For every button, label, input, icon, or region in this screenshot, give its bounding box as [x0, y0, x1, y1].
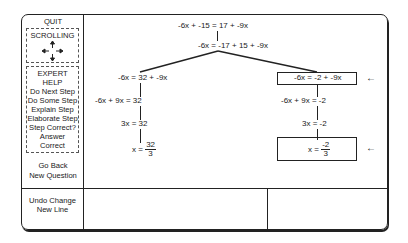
right-eq-2[interactable]: -6x + 9x = -2 [281, 96, 326, 105]
step-correct-button[interactable]: Step Correct? [27, 123, 78, 132]
elaborate-step-button[interactable]: Elaborate Step [27, 114, 78, 123]
go-back-button[interactable]: Go Back [22, 161, 84, 170]
new-line-button[interactable]: New Line [22, 205, 83, 214]
right-eq-1[interactable]: -6x = -2 + -9x [294, 73, 342, 82]
left-eq-2[interactable]: -6x + 9x = 32 [95, 96, 142, 105]
right-final-equation[interactable]: x = -23 [308, 141, 330, 158]
answer-label: Answer [40, 132, 65, 141]
undo-panel: Undo Change New Line [22, 189, 84, 229]
answer-correct-button[interactable]: AnswerCorrect [27, 132, 78, 150]
tree-link [140, 106, 141, 120]
bottom-bar: Undo Change New Line [22, 188, 387, 229]
tree-link [140, 83, 141, 97]
work-area: -6x + -15 = 17 + -9x -6x = -17 + 15 + -9… [84, 15, 387, 188]
right-eq-3[interactable]: 3x = -2 [302, 119, 327, 128]
final-lhs: x = [308, 145, 319, 154]
input-pane-right[interactable] [268, 189, 387, 229]
app-frame: QUIT SCROLLING EXPERT HELP Do Next Step … [21, 14, 388, 230]
input-pane-left[interactable] [84, 189, 268, 229]
scrolling-label: SCROLLING [27, 31, 78, 40]
denominator: 3 [148, 149, 152, 158]
undo-change-button[interactable]: Undo Change [22, 196, 83, 205]
final-lhs: x = [132, 145, 143, 154]
denominator: 3 [323, 149, 327, 158]
left-eq-3[interactable]: 3x = 32 [121, 119, 147, 128]
new-question-button[interactable]: New Question [22, 171, 84, 180]
expert-help-panel: EXPERT HELP Do Next Step Do Some Step Ex… [26, 66, 79, 153]
scroll-arrows-icon[interactable] [27, 40, 78, 62]
left-eq-1[interactable]: -6x = 32 + -9x [118, 73, 167, 82]
correct-label: Correct [40, 141, 65, 150]
fraction: 323 [145, 141, 156, 158]
left-final-equation[interactable]: x = 323 [132, 141, 156, 158]
expert-label: EXPERT [27, 69, 78, 78]
explain-step-button[interactable]: Explain Step [27, 105, 78, 114]
arrow-left-icon: ← [366, 143, 376, 153]
scrolling-control[interactable]: SCROLLING [26, 28, 79, 63]
arrow-left-icon: ← [366, 73, 376, 83]
quit-button[interactable]: QUIT [22, 17, 84, 26]
help-label: HELP [27, 78, 78, 87]
do-next-step-button[interactable]: Do Next Step [27, 87, 78, 96]
fraction: -23 [321, 141, 330, 158]
do-some-step-button[interactable]: Do Some Step [27, 96, 78, 105]
tree-link [317, 106, 318, 120]
